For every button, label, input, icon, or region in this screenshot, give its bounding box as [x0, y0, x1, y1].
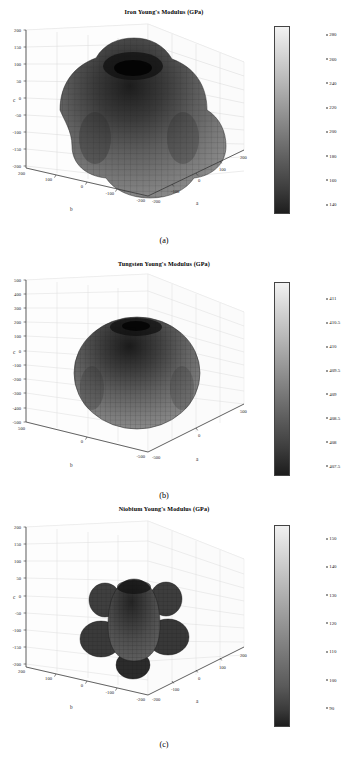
panel-a-title: Iron Young's Modulus (GPa): [0, 9, 328, 15]
ytick: 0: [81, 683, 84, 688]
ztick: 100: [14, 559, 22, 564]
ztick: 50: [16, 576, 21, 581]
xtick: -500: [152, 455, 161, 460]
cbar-tick: 140: [326, 202, 337, 207]
cbar-tick: 90: [326, 705, 334, 710]
panel-a-zaxis-label: c: [13, 97, 16, 103]
panel-b-surface: [74, 317, 200, 429]
ztick: -100: [13, 130, 22, 135]
cbar-tick: 150: [326, 536, 337, 541]
panel-b-colorbar[interactable]: 411 410.5 410 409.5 409 408.5 408 407.5: [274, 282, 326, 476]
cbar-tick: 180: [326, 153, 337, 158]
ztick-corner: 200: [18, 171, 26, 176]
panel-c-zaxis-label: c: [13, 594, 16, 600]
colorbar-gradient: [275, 27, 289, 213]
ztick: 400: [14, 292, 22, 297]
ytick: -500: [137, 454, 146, 459]
colorbar-c-ticks: 150 140 130 120 110 100 90: [326, 525, 345, 727]
ztick: 50: [16, 79, 21, 84]
ztick: -150: [13, 645, 22, 650]
ytick: 0: [81, 184, 84, 189]
ytick: -100: [106, 690, 115, 695]
ztick: 0: [19, 594, 22, 599]
ztick: 200: [14, 525, 22, 530]
ztick: -100: [13, 628, 22, 633]
cbar-tick: 260: [326, 56, 337, 61]
ztick: 200: [14, 320, 22, 325]
ztick-corner: 500: [18, 426, 26, 431]
xtick: 0: [198, 676, 201, 681]
panel-a-colorbar[interactable]: 280 260 240 220 200 180 160 140: [274, 26, 326, 214]
panel-c: Niobium Young's Modulus (GPa): [0, 497, 328, 758]
xtick: -100: [171, 189, 180, 194]
xtick: 0: [198, 178, 201, 183]
cbar-tick: 160: [326, 177, 337, 182]
panel-c-title: Niobium Young's Modulus (GPa): [0, 506, 328, 512]
ztick: -50: [15, 113, 22, 118]
cbar-tick: 410: [326, 344, 337, 349]
panel-c-plot: 200 150 100 50 0 -50 -100 -150 -200 200 …: [0, 517, 262, 735]
ztick: 100: [14, 62, 22, 67]
ztick: 0: [19, 96, 22, 101]
xtick: 200: [240, 155, 248, 160]
panel-a-axes: 200 150 100 50 0 -50 -100 -150 -200 200: [0, 18, 262, 234]
cbar-tick: 100: [326, 677, 337, 682]
cbar-tick: 200: [326, 129, 337, 134]
ytick: 100: [45, 177, 53, 182]
ytick: 100: [45, 676, 53, 681]
panel-c-caption: (c): [0, 740, 328, 749]
panel-b-xaxis-label: a: [196, 456, 199, 462]
xtick: -200: [152, 199, 161, 204]
cbar-tick: 409: [326, 391, 337, 396]
cbar-tick: 408.5: [326, 415, 340, 420]
cbar-tick: 140: [326, 564, 337, 569]
ytick: -100: [106, 191, 115, 196]
cbar-tick: 130: [326, 592, 337, 597]
ytick: -200: [137, 697, 146, 702]
panel-a: Iron Young's Modulus (GPa): [0, 0, 328, 252]
ztick: 200: [14, 28, 22, 33]
xtick: -100: [171, 687, 180, 692]
ztick: -500: [13, 420, 22, 425]
ztick: 500: [14, 278, 22, 283]
panel-b: Tungsten Young's Modulus (GPa): [0, 252, 328, 505]
ztick: 150: [14, 542, 22, 547]
xtick: 100: [219, 167, 227, 172]
panel-c-axes: 200 150 100 50 0 -50 -100 -150 -200 200 …: [0, 517, 262, 735]
ztick: -400: [13, 406, 22, 411]
xtick: 0: [198, 433, 201, 438]
panel-b-zaxis-label: c: [13, 349, 16, 355]
panel-c-yaxis-label: b: [70, 704, 73, 710]
panel-a-caption: (a): [0, 236, 328, 245]
panel-a-xaxis-label: a: [196, 200, 199, 206]
cbar-tick: 120: [326, 620, 337, 625]
ztick-corner: 200: [18, 669, 26, 674]
ztick: -100: [13, 363, 22, 368]
colorbar-gradient: [275, 283, 289, 475]
ztick: 0: [19, 349, 22, 354]
panel-a-yaxis-label: b: [70, 206, 73, 212]
ztick: -50: [15, 611, 22, 616]
ytick: -200: [137, 198, 146, 203]
cbar-tick: 280: [326, 32, 337, 37]
cbar-tick: 411: [326, 296, 336, 301]
panel-b-axes: 500 400 300 200 100 0 -100 -200 -300 -40…: [0, 270, 262, 492]
ztick: 100: [14, 334, 22, 339]
xtick: -200: [152, 697, 161, 702]
xtick: 500: [240, 409, 248, 414]
ztick: -300: [13, 391, 22, 396]
panel-a-plot: 200 150 100 50 0 -50 -100 -150 -200 200: [0, 18, 262, 234]
ztick: -200: [13, 377, 22, 382]
panel-c-colorbar[interactable]: 150 140 130 120 110 100 90: [274, 525, 326, 727]
xtick: 200: [240, 653, 248, 658]
cbar-tick: 110: [326, 649, 336, 654]
ytick: 0: [81, 439, 84, 444]
panel-c-xaxis-label: a: [196, 698, 199, 704]
ztick: -150: [13, 147, 22, 152]
cbar-tick: 408: [326, 439, 337, 444]
cbar-tick: 407.5: [326, 463, 340, 468]
panel-b-title: Tungsten Young's Modulus (GPa): [0, 261, 328, 267]
panel-b-yaxis-label: b: [70, 462, 73, 468]
xtick: 100: [219, 665, 227, 670]
